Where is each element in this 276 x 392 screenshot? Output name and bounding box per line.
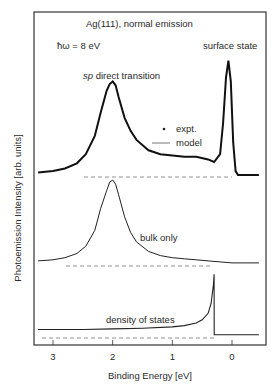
sp-transition-label: sp direct transition	[83, 70, 160, 81]
photon-energy-label: ħω = 8 eV	[57, 40, 101, 51]
bulk-only-curve	[38, 180, 259, 263]
surface-state-label: surface state	[203, 40, 257, 51]
chart-title: Ag(111), normal emission	[86, 18, 193, 29]
density-of-states-curve	[38, 274, 259, 334]
legend: expt. model	[152, 123, 202, 148]
plot-frame	[34, 12, 266, 345]
x-tick-label: 0	[229, 351, 234, 362]
bulk-only-label: bulk only	[140, 232, 178, 243]
photoemission-figure: Ag(111), normal emission ħω = 8 eV surfa…	[0, 0, 276, 392]
legend-expt-marker	[163, 128, 166, 131]
x-axis-label: Binding Energy [eV]	[108, 370, 192, 381]
x-tick-label: 1	[170, 351, 175, 362]
legend-model-label: model	[176, 137, 202, 148]
x-tick-label: 2	[110, 351, 115, 362]
x-tick-label: 3	[50, 351, 55, 362]
legend-expt-label: expt.	[176, 123, 197, 134]
x-axis-ticks: 3210	[50, 340, 234, 362]
density-of-states-label: density of states	[106, 314, 175, 325]
y-axis-label: Photoemission Intensity [arb. units]	[12, 134, 23, 281]
